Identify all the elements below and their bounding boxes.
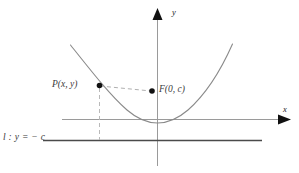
- focus-f-dot: [149, 88, 155, 94]
- directrix-label: l : y = − c: [3, 133, 45, 143]
- parabola-figure: y x P(x, y) F(0, c) l : y = − c: [0, 0, 299, 173]
- y-axis-arrowhead-icon: [153, 8, 163, 20]
- figure-canvas: [0, 0, 299, 173]
- focus-f-label: F(0, c): [159, 85, 185, 95]
- parabola-curve: [71, 44, 233, 123]
- x-axis-arrowhead-icon: [278, 115, 291, 125]
- x-axis-label: x: [283, 105, 287, 114]
- y-axis-label: y: [172, 8, 176, 17]
- x-axis: [62, 115, 291, 125]
- point-p-dot: [97, 83, 103, 89]
- point-p-label: P(x, y): [52, 80, 77, 90]
